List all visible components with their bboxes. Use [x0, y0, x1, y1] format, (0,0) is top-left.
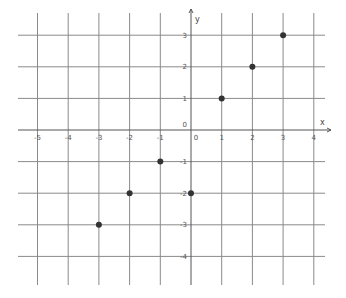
data-point	[96, 222, 102, 228]
x-axis-label: x	[320, 118, 325, 127]
x-tick-label: 4	[312, 134, 317, 142]
grid-lines	[18, 13, 325, 285]
y-tick-label: 2	[183, 63, 187, 71]
y-tick-label: 1	[183, 95, 187, 103]
x-tick-label: 3	[281, 134, 285, 142]
y-tick-label: 3	[183, 32, 187, 40]
y-tick-label: -3	[180, 221, 187, 229]
y-tick-label: -4	[180, 253, 188, 261]
y-tick-label: -2	[180, 190, 187, 198]
data-point	[280, 32, 286, 38]
x-tick-label: -4	[65, 134, 73, 142]
origin-label: 0	[183, 121, 187, 129]
x-tick-label: 2	[250, 134, 254, 142]
data-point	[157, 159, 163, 165]
x-tick-label: 0	[194, 134, 198, 142]
x-tick-label: -1	[157, 134, 164, 142]
data-point	[249, 64, 255, 70]
y-tick-label: -1	[180, 158, 187, 166]
x-tick-label: -5	[34, 134, 41, 142]
data-point	[188, 190, 194, 196]
y-axis-label: y	[195, 15, 200, 24]
axes	[18, 9, 331, 285]
data-point	[219, 95, 225, 101]
x-tick-label: 1	[219, 134, 223, 142]
tick-labels: -5-4-3-2-1012343210-1-2-3-4	[34, 32, 317, 261]
x-tick-label: -2	[126, 134, 133, 142]
coordinate-plane: -5-4-3-2-1012343210-1-2-3-4 x y	[0, 0, 346, 298]
data-point	[127, 190, 133, 196]
x-tick-label: -3	[95, 134, 102, 142]
